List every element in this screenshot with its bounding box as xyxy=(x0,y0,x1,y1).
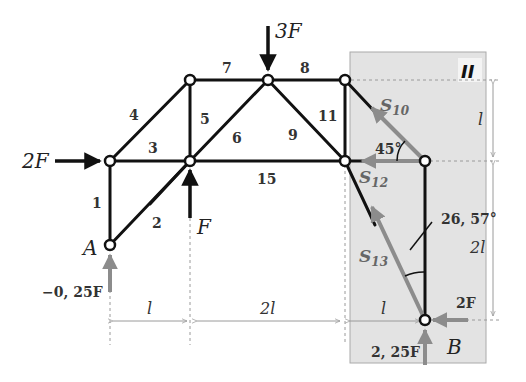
angle-2657-label: 26, 57° xyxy=(441,211,497,227)
section-panel: II xyxy=(350,52,486,363)
dim-l-1: l xyxy=(147,299,152,318)
node-b xyxy=(420,315,430,325)
node-mid-right xyxy=(340,156,350,166)
node-top-middle xyxy=(263,75,273,85)
support-b-label: B xyxy=(446,335,462,359)
node-left xyxy=(105,156,115,166)
member-label-15: 15 xyxy=(257,171,276,187)
member-label-7: 7 xyxy=(222,60,232,76)
node-top-left xyxy=(185,75,195,85)
member-label-1: 1 xyxy=(92,195,102,211)
member-2-ext xyxy=(150,161,190,204)
node-section-right xyxy=(420,156,430,166)
dim-vert-l: l xyxy=(478,110,483,129)
dim-l-2: l xyxy=(381,299,386,318)
angle-45-label: 45° xyxy=(375,141,401,157)
reaction-b-horizontal-label: 2F xyxy=(456,295,476,311)
member-label-9: 9 xyxy=(288,127,298,143)
member-label-6: 6 xyxy=(232,130,242,146)
member-label-8: 8 xyxy=(300,60,310,76)
load-3f-label: 3F xyxy=(275,19,303,43)
member-label-2: 2 xyxy=(152,215,162,231)
section-label: II xyxy=(461,61,475,82)
node-center-left xyxy=(185,156,195,166)
member-label-5: 5 xyxy=(200,111,210,127)
member-label-4: 4 xyxy=(129,107,139,123)
node-a xyxy=(105,240,115,250)
reaction-b-label: 2, 25F xyxy=(371,344,420,360)
member-label-11: 11 xyxy=(318,108,337,124)
member-label-3: 3 xyxy=(148,140,158,156)
truss-diagram: II l 2l l l 2l xyxy=(0,0,526,382)
reaction-a-label: −0, 25F xyxy=(42,284,103,300)
load-2f-label: 2F xyxy=(21,149,50,173)
load-f-label: F xyxy=(196,215,212,239)
support-a-label: A xyxy=(81,236,97,260)
dim-2l: 2l xyxy=(259,299,275,318)
dim-vert-2l: 2l xyxy=(469,238,485,257)
node-top-right xyxy=(340,75,350,85)
